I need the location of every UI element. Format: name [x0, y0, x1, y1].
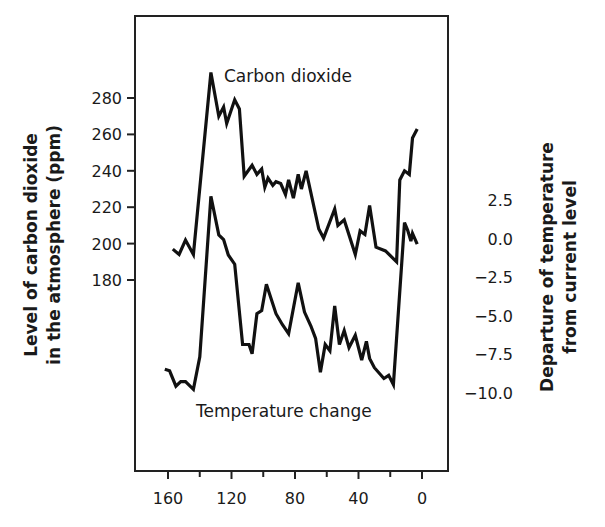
- right-axis-title-line2: from current level: [560, 180, 580, 354]
- right-tick-label: −7.5: [474, 345, 513, 364]
- right-tick-label: −5.0: [474, 307, 513, 326]
- co2-temperature-chart: 280260240220200180 2.50.0−2.5−5.0−7.5−10…: [0, 0, 605, 527]
- x-axis: 16012080400: [153, 471, 427, 508]
- temperature-series-label: Temperature change: [195, 401, 372, 421]
- left-tick-label: 220: [91, 198, 122, 217]
- left-tick-label: 260: [91, 125, 122, 144]
- right-tick-label: 2.5: [488, 191, 513, 210]
- x-tick-label: 80: [285, 489, 305, 508]
- right-axis-title-line1: Departure of temperature: [537, 142, 557, 392]
- right-tick-label: 0.0: [488, 230, 513, 249]
- right-axis: 2.50.0−2.5−5.0−7.5−10.0: [464, 191, 513, 403]
- x-tick-label: 0: [417, 489, 427, 508]
- left-tick-label: 180: [91, 271, 122, 290]
- x-tick-label: 160: [153, 489, 184, 508]
- temperature-line: [165, 196, 417, 389]
- x-tick-label: 40: [348, 489, 368, 508]
- right-tick-label: −10.0: [464, 384, 513, 403]
- left-axis-title-line2: in the atmosphere (ppm): [44, 125, 64, 365]
- left-axis: 280260240220200180: [91, 89, 135, 290]
- co2-series-label: Carbon dioxide: [224, 66, 352, 86]
- left-tick-label: 280: [91, 89, 122, 108]
- left-axis-title-line1: Level of carbon dioxide: [21, 133, 41, 357]
- left-tick-label: 200: [91, 235, 122, 254]
- left-tick-label: 240: [91, 162, 122, 181]
- right-tick-label: −2.5: [474, 268, 513, 287]
- x-tick-label: 120: [216, 489, 247, 508]
